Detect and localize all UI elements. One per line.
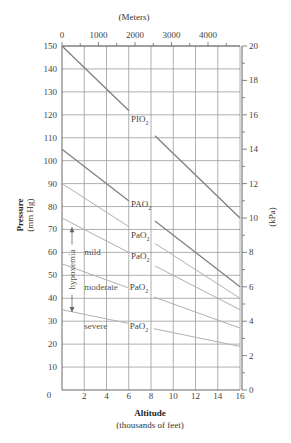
x-axis-title: Altitude (134, 408, 166, 418)
y-tick-label: 10 (48, 362, 58, 372)
zone-label-severe: severe (84, 321, 107, 331)
x2-tick-label: 2000 (126, 30, 145, 40)
x2-axis-title: (Meters) (119, 12, 150, 22)
series-line (154, 297, 240, 328)
series-line (155, 136, 240, 218)
y2-tick-label: 14 (249, 144, 259, 154)
y2-tick-label: 20 (249, 41, 259, 51)
series-line (155, 266, 240, 310)
series-label: PaO2 (130, 321, 149, 333)
series-line (62, 184, 129, 227)
y-tick-label: 70 (48, 224, 58, 234)
y-tick-label: 90 (48, 179, 58, 189)
zone-label-mild: mild (84, 247, 101, 257)
x-tick-label: 4 (104, 391, 109, 401)
x-origin-label: 0 (47, 390, 52, 400)
x-tick-label: 6 (127, 391, 132, 401)
y-tick-label: 60 (48, 247, 58, 257)
y-axis-subtitle: (mm Hg) (25, 198, 35, 231)
y-axis-title: Pressure (15, 198, 25, 231)
series-line (62, 46, 129, 111)
x-tick-label: 14 (213, 391, 223, 401)
x-tick-label: 16 (236, 391, 246, 401)
y2-axis-title: (kPa) (267, 207, 277, 227)
series-line (155, 221, 240, 287)
y2-tick-label: 0 (249, 385, 254, 395)
y-tick-label: 80 (48, 202, 58, 212)
y2-tick-label: 16 (249, 110, 259, 120)
y2-tick-label: 8 (249, 247, 254, 257)
grid-lines (62, 46, 240, 390)
series-line (62, 149, 129, 201)
y-tick-label: 120 (44, 110, 58, 120)
x2-tick-label: 4000 (199, 30, 218, 40)
x-tick-label: 12 (191, 391, 200, 401)
x-tick-label: 2 (82, 391, 87, 401)
y2-tick-label: 18 (249, 75, 259, 85)
y-tick-label: 150 (44, 41, 58, 51)
series-labels: PIO2PAO2PaO2PaO2PaO2PaO2 (130, 114, 151, 332)
y2-tick-label: 4 (249, 316, 254, 326)
y-tick-label: 130 (44, 87, 58, 97)
x-axis-subtitle: (thousands of feet) (116, 420, 183, 430)
series-label: PIO2 (131, 114, 149, 126)
series-line (155, 243, 240, 298)
series-label: PaO2 (131, 230, 150, 242)
y2-tick-label: 6 (249, 282, 254, 292)
y2-tick-label: 10 (249, 213, 259, 223)
x2-tick-label: 0 (60, 30, 65, 40)
altitude-pressure-chart: 1020304050607080901001101201301401502468… (0, 0, 291, 443)
zone-label-moderate: moderate (84, 282, 117, 292)
x-tick-label: 10 (169, 391, 179, 401)
y-tick-label: 20 (48, 339, 58, 349)
y-tick-label: 40 (48, 293, 58, 303)
x2-tick-label: 3000 (162, 30, 181, 40)
series-label: PaO2 (130, 282, 149, 294)
series-label: PAO2 (131, 199, 151, 211)
x-tick-label: 8 (149, 391, 154, 401)
y2-tick-label: 12 (249, 179, 258, 189)
y2-tick-label: 2 (249, 351, 254, 361)
y-tick-label: 110 (44, 133, 58, 143)
hypoxemia-label: hypoxemia (67, 250, 77, 290)
y-tick-label: 50 (48, 270, 58, 280)
x2-tick-label: 1000 (89, 30, 108, 40)
y-tick-label: 140 (44, 64, 58, 74)
y-tick-label: 100 (44, 156, 58, 166)
y-tick-label: 30 (48, 316, 58, 326)
